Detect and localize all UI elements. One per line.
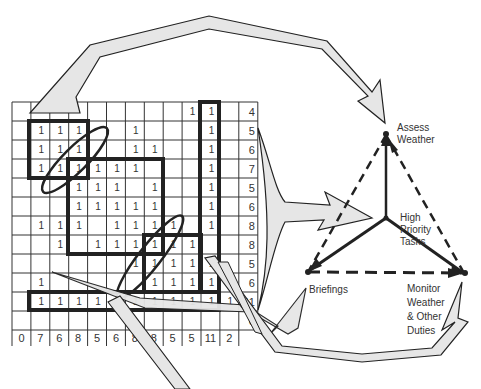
matrix-cell-value: 1	[152, 277, 158, 288]
matrix-cell-value: 1	[76, 201, 82, 212]
matrix-cell-value: 1	[76, 182, 82, 193]
matrix-cell-value: 1	[76, 125, 82, 136]
matrix-cell-value: 1	[39, 144, 45, 155]
row-sum: 5	[249, 125, 255, 137]
matrix-cell-value: 1	[57, 144, 63, 155]
arrow-to-high-priority	[258, 128, 372, 310]
label-monitor-line2: Weather	[407, 296, 445, 310]
label-high-priority-line2: Priority	[400, 224, 431, 236]
matrix-cell-value: 1	[39, 163, 45, 174]
label-assess-line1: Assess	[397, 122, 435, 134]
matrix-cell-value: 1	[76, 296, 82, 307]
column-sum: 7	[37, 332, 43, 344]
matrix-cell-value: 1	[95, 201, 101, 212]
label-briefings-text: Briefings	[309, 284, 348, 296]
column-sum: 5	[94, 332, 100, 344]
column-sum: 11	[205, 332, 216, 344]
matrix-cell-value: 1	[133, 144, 139, 155]
matrix-cell-value: 1	[152, 220, 158, 231]
label-assess-weather: Assess Weather	[397, 122, 435, 146]
matrix-cell-value: 1	[171, 258, 177, 269]
edge-assess-monitor	[386, 135, 464, 273]
matrix-cell-value: 1	[209, 144, 215, 155]
row-sum: 6	[249, 277, 255, 289]
matrix-cell-value: 1	[190, 106, 196, 117]
label-monitor-line4: Duties	[407, 324, 445, 338]
label-monitor-line1: Monitor	[407, 282, 445, 296]
matrix-cell-value: 1	[190, 258, 196, 269]
edge-briefings-monitor	[308, 272, 464, 273]
label-briefings: Briefings	[309, 284, 348, 296]
matrix-cell-value: 1	[133, 201, 139, 212]
row-sum: 8	[249, 239, 255, 251]
matrix-cell-value: 1	[95, 296, 101, 307]
column-sum: 2	[226, 332, 232, 344]
matrix-cell-value: 1	[209, 277, 215, 288]
matrix-cell-value: 1	[114, 239, 120, 250]
row-sum: 4	[249, 106, 255, 118]
matrix-cell-value: 1	[209, 125, 215, 136]
node-assess-weather	[383, 131, 389, 137]
column-sum: 5	[188, 332, 194, 344]
label-high-priority-line3: Tasks	[400, 236, 431, 248]
matrix-cell-value: 1	[114, 182, 120, 193]
matrix-cell-value: 1	[95, 182, 101, 193]
matrix-cell-value: 1	[152, 239, 158, 250]
matrix-cell-value: 1	[133, 125, 139, 136]
row-sum: 8	[249, 220, 255, 232]
column-sum: 0	[18, 332, 24, 344]
matrix-cell-value: 1	[209, 106, 215, 117]
edge-assess-briefings	[308, 135, 386, 272]
matrix-cell-value: 1	[95, 239, 101, 250]
matrix-cell-value: 1	[209, 220, 215, 231]
arrow-to-briefings	[52, 272, 306, 334]
arrow-to-assess-weather	[30, 16, 385, 123]
column-sum: 6	[56, 332, 62, 344]
column-sum: 6	[113, 332, 119, 344]
matrix-cell-value: 1	[209, 182, 215, 193]
matrix-cell-value: 1	[39, 296, 45, 307]
row-sum: 5	[249, 182, 255, 194]
matrix-cell-value: 1	[76, 220, 82, 231]
matrix-cell-value: 1	[152, 144, 158, 155]
node-briefings	[305, 269, 311, 275]
matrix-cell-value: 1	[209, 201, 215, 212]
matrix-cell-value: 1	[133, 239, 139, 250]
matrix-cell-value: 1	[171, 277, 177, 288]
label-high-priority-line1: High	[400, 212, 431, 224]
matrix-cell-value: 1	[133, 163, 139, 174]
matrix-cell-value: 1	[209, 163, 215, 174]
column-sum: 8	[75, 332, 81, 344]
label-high-priority-tasks: High Priority Tasks	[400, 212, 431, 248]
matrix-cell-value: 1	[57, 239, 63, 250]
matrix-cell-value: 1	[39, 125, 45, 136]
matrix-cell-value: 1	[190, 277, 196, 288]
matrix-cell-value: 1	[57, 296, 63, 307]
matrix-cell-value: 1	[114, 201, 120, 212]
matrix-cell-value: 1	[57, 220, 63, 231]
matrix-cell-value: 1	[57, 163, 63, 174]
column-sum: 5	[170, 332, 176, 344]
label-monitor-line3: & Other	[407, 310, 445, 324]
matrix-cell-value: 1	[39, 220, 45, 231]
matrix-cell-value: 1	[152, 201, 158, 212]
matrix-cell-value: 1	[95, 163, 101, 174]
label-monitor-weather: Monitor Weather & Other Duties	[407, 282, 445, 338]
matrix-cell-value: 1	[171, 220, 177, 231]
node-high-priority	[384, 216, 389, 221]
row-sum: 7	[249, 163, 255, 175]
matrix-cell-value: 1	[76, 144, 82, 155]
matrix-cell-value: 1	[114, 163, 120, 174]
matrix-cell-value: 1	[39, 277, 45, 288]
row-sum: 6	[249, 144, 255, 156]
matrix-cell-value: 1	[57, 125, 63, 136]
matrix-cell-value: 1	[114, 220, 120, 231]
node-monitor	[462, 270, 468, 276]
label-assess-line2: Weather	[397, 134, 435, 146]
row-sum: 6	[249, 201, 255, 213]
row-sum: 5	[249, 258, 255, 270]
matrix-cell-value: 1	[190, 239, 196, 250]
matrix-cell-value: 1	[152, 182, 158, 193]
task-clustering-diagram: 1141111151111116111111171111151111116111…	[0, 0, 481, 389]
matrix-cell-value: 1	[133, 220, 139, 231]
